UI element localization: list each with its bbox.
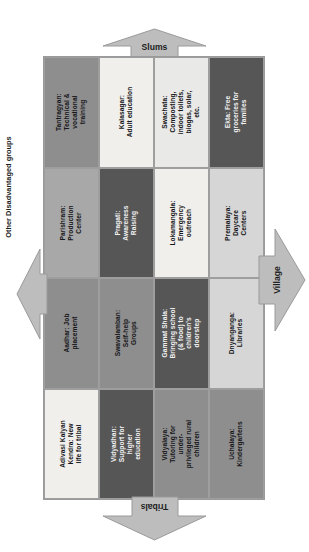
arrow-other-disadvantaged <box>16 248 48 340</box>
arrow-tribals: Tribals <box>102 496 207 541</box>
matrix-cell[interactable]: Lokamangala: Emergency outreach <box>154 168 209 279</box>
matrix-cell-label: Vidyalaya: Tutoring for under-privileged… <box>161 417 201 470</box>
matrix-cell[interactable]: Tantragyan: Technical & vocational train… <box>44 57 99 168</box>
matrix-cell-label: Tantragyan: Technical & vocational train… <box>55 86 87 139</box>
matrix-cell[interactable]: Kalasagar: Adult education <box>99 57 154 168</box>
matrix-cell[interactable]: Parishram: Production Center <box>44 168 99 279</box>
matrix-cell[interactable]: Swachata: Composting, indoor toilets, bi… <box>154 57 209 168</box>
arrow-other-disadvantaged-label: Other Disadvantaged groups <box>1 127 15 247</box>
matrix-cell-label: Ekta: Free groceries for families <box>224 86 248 139</box>
matrix-cell-label: Vidyadhan: Support for higher education <box>110 417 142 470</box>
matrix-cell[interactable]: Vidyadhan: Support for higher education <box>99 389 154 500</box>
matrix-cell[interactable]: Ekta: Free groceries for families <box>209 57 264 168</box>
matrix-cell[interactable]: Aadhar: Job placement <box>44 278 99 389</box>
matrix-cell[interactable]: Dnyanganga: Libraries <box>209 278 264 389</box>
matrix-cell-label: Adivasi Kalyan Kendra: New life for trib… <box>59 417 83 470</box>
matrix-cell-label: Uchalaya: Kindergartens <box>228 417 244 470</box>
matrix-cell-label: Swachata: Composting, indoor toilets, bi… <box>161 86 201 139</box>
matrix-cell-label: Pragati: Awareness Raising <box>114 196 138 249</box>
matrix-cell[interactable]: Pragati: Awareness Raising <box>99 168 154 279</box>
matrix-cell[interactable]: Gammat Shala: Bringing school (& food) t… <box>154 278 209 389</box>
matrix-cell[interactable]: Vidyalaya: Tutoring for under-privileged… <box>154 389 209 500</box>
matrix-cell-label: Aadhar: Job placement <box>63 307 79 360</box>
matrix-cell[interactable]: Uchalaya: Kindergartens <box>209 389 264 500</box>
matrix-cell-label: Lokamangala: Emergency outreach <box>169 196 193 249</box>
matrix-cell-label: Gammat Shala: Bringing school (& food) t… <box>161 307 201 360</box>
matrix-cell-label: Dnyanganga: Libraries <box>228 307 244 360</box>
matrix-cell-label: Parishram: Production Center <box>59 196 83 249</box>
matrix-cell-label: Swavalamban: Self-help Groups <box>114 307 138 360</box>
arrow-village: Village <box>258 228 306 332</box>
program-matrix: Tantragyan: Technical & vocational train… <box>43 56 265 500</box>
matrix-cell[interactable]: Swavalamban: Self-help Groups <box>99 278 154 389</box>
matrix-cell-label: Premalaya: Daycare Centers <box>224 196 248 249</box>
matrix-cell[interactable]: Premalaya: Daycare Centers <box>209 168 264 279</box>
matrix-cell-label: Kalasagar: Adult education <box>118 86 134 139</box>
matrix-cell[interactable]: Adivasi Kalyan Kendra: New life for trib… <box>44 389 99 500</box>
diagram-canvas: Slums Tantragyan: Technical & vocational… <box>0 0 309 552</box>
